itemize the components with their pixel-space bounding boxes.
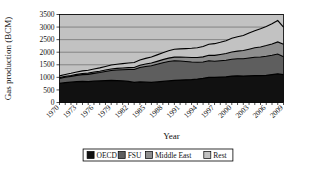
x-tick-label: 1970 [44,103,61,120]
x-tick-label: 1997 [199,103,216,120]
stacked-area-chart: 0500100015002000250030003500197019731976… [0,0,316,169]
chart-figure: 0500100015002000250030003500197019731976… [0,0,316,169]
legend-label-fsu[interactable]: FSU [128,151,142,160]
x-axis-labels: 1970197319761979198219851988199119941997… [44,103,285,120]
legend: OECDFSUMiddle EastRest [83,149,233,161]
x-tick-label: 2003 [233,103,250,120]
legend-swatch-middle-east [145,152,152,159]
x-tick-label: 1979 [96,103,113,120]
x-tick-label: 2009 [268,103,285,120]
x-axis-title: Year [163,131,180,141]
y-tick-label: 1500 [40,60,55,69]
y-tick-label: 500 [43,86,55,95]
x-tick-label: 1994 [182,103,199,120]
y-tick-label: 3500 [40,10,55,19]
x-tick-label: 2000 [216,103,233,120]
legend-label-oecd[interactable]: OECD [97,151,118,160]
y-tick-label: 1000 [40,73,55,82]
x-tick-label: 1985 [130,103,147,120]
legend-label-middle-east[interactable]: Middle East [155,151,192,160]
y-tick-label: 2500 [40,35,55,44]
x-tick-label: 1988 [147,103,164,120]
legend-swatch-fsu [118,152,125,159]
y-axis-title: Gas production (BCM) [3,17,13,101]
y-tick-label: 2000 [40,48,55,57]
legend-label-rest[interactable]: Rest [213,151,227,160]
legend-swatch-oecd [87,152,94,159]
x-tick-label: 1982 [113,103,130,120]
x-tick-label: 2006 [251,103,268,120]
legend-swatch-rest [204,152,211,159]
x-tick-label: 1991 [165,103,182,120]
y-tick-label: 3000 [40,23,55,32]
x-tick-label: 1973 [61,103,78,120]
x-tick-label: 1976 [78,103,95,120]
y-axis: 0500100015002000250030003500 [40,10,60,107]
